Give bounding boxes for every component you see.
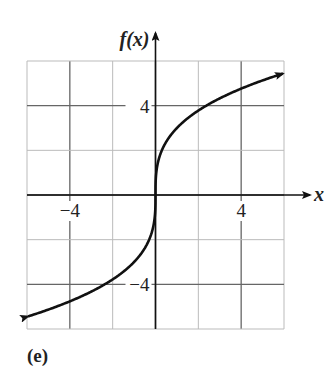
y-tick-label: −4 [129, 274, 150, 295]
x-axis-label: x [313, 183, 324, 205]
figure-label: (e) [27, 345, 48, 367]
y-tick-label: 4 [140, 96, 150, 117]
cube-root-graph: −444−4 x f(x) (e) [0, 0, 333, 372]
x-tick-label: 4 [236, 200, 246, 221]
x-tick-label: −4 [60, 200, 81, 221]
y-axis-label: f(x) [120, 28, 150, 51]
